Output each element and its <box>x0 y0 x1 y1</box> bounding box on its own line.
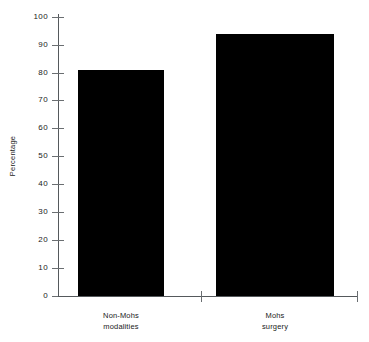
y-tick-label-60: 60 <box>8 124 48 132</box>
y-tick-label-0: 0 <box>8 292 48 300</box>
bar-chart-figure: Percentage 100 90 80 70 60 50 40 30 20 1… <box>0 0 369 342</box>
y-tick-label-70: 70 <box>8 96 48 104</box>
bar-non-mohs-modalities <box>78 70 164 296</box>
y-tick-90 <box>52 45 64 46</box>
y-tick-30 <box>52 212 64 213</box>
y-tick-50 <box>52 156 64 157</box>
y-tick-40 <box>52 184 64 185</box>
y-tick-label-90: 90 <box>8 41 48 49</box>
x-category-label-non-mohs-line1: Non-Mohs <box>76 311 166 322</box>
x-tick-mid <box>201 291 202 302</box>
y-tick-80 <box>52 73 64 74</box>
x-category-label-mohs-surgery: Mohs surgery <box>230 311 320 333</box>
y-tick-20 <box>52 240 64 241</box>
y-tick-label-100: 100 <box>8 13 48 21</box>
x-tick-end <box>357 291 358 302</box>
y-tick-70 <box>52 100 64 101</box>
y-tick-10 <box>52 268 64 269</box>
y-tick-label-50: 50 <box>8 152 48 160</box>
y-tick-label-80: 80 <box>8 69 48 77</box>
x-axis-line <box>58 296 358 297</box>
y-tick-100 <box>52 17 64 18</box>
y-tick-label-10: 10 <box>8 264 48 272</box>
y-tick-label-20: 20 <box>8 236 48 244</box>
y-tick-label-30: 30 <box>8 208 48 216</box>
x-category-label-non-mohs: Non-Mohs modalities <box>76 311 166 333</box>
x-category-label-mohs-surgery-line2: surgery <box>230 322 320 333</box>
bar-mohs-surgery <box>216 34 334 296</box>
y-tick-60 <box>52 128 64 129</box>
x-category-label-mohs-surgery-line1: Mohs <box>230 311 320 322</box>
y-tick-label-40: 40 <box>8 180 48 188</box>
x-category-label-non-mohs-line2: modalities <box>76 322 166 333</box>
